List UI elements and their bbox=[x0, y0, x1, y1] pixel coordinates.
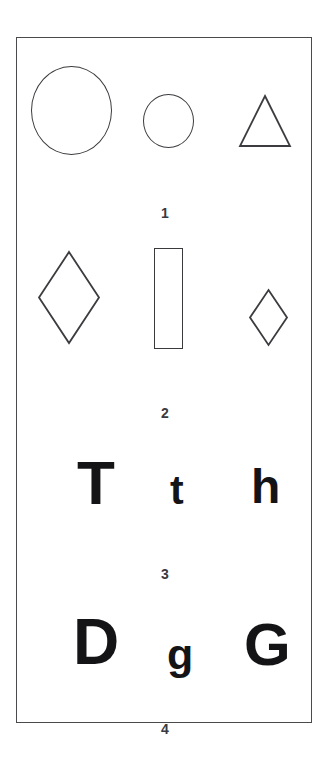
letter-glyph-lowercase-g: g bbox=[167, 633, 193, 676]
circle-medium-shape bbox=[143, 94, 194, 148]
row-label-1: 1 bbox=[145, 206, 185, 220]
diamond-small-shape bbox=[248, 288, 289, 347]
figure-sheet: 1 2 T t h 3 D bbox=[0, 0, 317, 770]
diamond-large-shape bbox=[37, 250, 101, 345]
row-label-3: 3 bbox=[145, 567, 185, 581]
figure-frame-border: 1 2 T t h 3 D bbox=[16, 37, 312, 723]
row-label-4: 4 bbox=[145, 722, 185, 736]
letter-glyph-uppercase-t: T bbox=[77, 452, 115, 514]
triangle-shape bbox=[238, 94, 292, 148]
letter-glyph-lowercase-t: t bbox=[170, 470, 184, 511]
triangle-outline-icon bbox=[238, 94, 292, 148]
letter-glyph-uppercase-d: D bbox=[73, 610, 119, 674]
letter-glyph-lowercase-h: h bbox=[251, 463, 280, 511]
circle-large-shape bbox=[31, 66, 112, 155]
letter-glyph-uppercase-g: G bbox=[244, 615, 291, 675]
diamond-large-outline-icon bbox=[37, 250, 101, 345]
row-label-2: 2 bbox=[145, 406, 185, 420]
diamond-small-outline-icon bbox=[248, 288, 289, 347]
rectangle-shape bbox=[154, 248, 183, 349]
